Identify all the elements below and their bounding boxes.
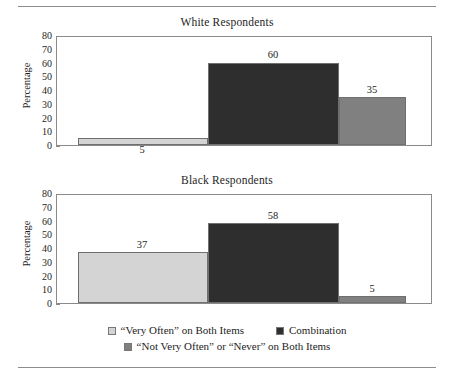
y-tick-20: 20 [18,114,52,124]
bar-white-not-very-often [339,97,406,145]
bar-value-white-not-very-often: 35 [367,84,378,95]
y-tick-0: 0 [18,141,52,151]
top-rule [18,6,436,7]
chart-legend: “Very Often” on Both Items Combination “… [0,320,454,352]
bar-value-black-combination: 58 [268,210,279,221]
y-tick-20: 20 [18,272,52,282]
legend-swatch-icon-not-very-often [124,343,132,351]
legend-row-2: “Not Very Often” or “Never” on Both Item… [0,336,454,352]
y-tick-70: 70 [18,203,52,213]
y-tick-50: 50 [18,230,52,240]
y-tick-10: 10 [18,127,52,137]
y-tick-30: 30 [18,258,52,268]
plot-area-black [56,194,432,304]
figure-page: White Respondents Percentage 0 10 20 30 … [0,0,454,380]
bar-value-black-not-very-often: 5 [369,283,374,294]
y-tick-0: 0 [18,299,52,309]
y-tick-60: 60 [18,59,52,69]
bar-white-combination [208,63,339,146]
panel-title-black: Black Respondents [0,174,454,186]
bar-black-very-often [78,252,208,303]
legend-swatch-icon-combination [276,327,284,335]
bar-black-combination [208,223,339,303]
bar-value-white-very-often: 5 [139,144,144,155]
legend-label-not-very-often: “Not Very Often” or “Never” on Both Item… [137,340,331,352]
legend-item-not-very-often: “Not Very Often” or “Never” on Both Item… [124,338,331,354]
y-tick-labels-black: 0 10 20 30 40 50 60 70 80 [18,194,52,304]
y-tick-10: 10 [18,285,52,295]
y-tick-50: 50 [18,72,52,82]
bar-black-not-very-often [339,296,406,303]
bottom-rule [18,367,436,368]
panel-title-white: White Respondents [0,16,454,28]
bar-value-black-very-often: 37 [137,239,148,250]
y-tick-labels-white: 0 10 20 30 40 50 60 70 80 [18,36,52,146]
legend-label-combination: Combination [289,324,346,336]
y-tick-70: 70 [18,45,52,55]
y-tick-40: 40 [18,244,52,254]
legend-swatch-icon-very-often [108,327,116,335]
legend-row-1: “Very Often” on Both Items Combination [0,320,454,336]
y-tick-60: 60 [18,217,52,227]
legend-label-very-often: “Very Often” on Both Items [121,324,244,336]
y-tick-80: 80 [18,189,52,199]
y-tick-40: 40 [18,86,52,96]
bar-value-white-combination: 60 [268,49,279,60]
y-tick-80: 80 [18,31,52,41]
y-tick-30: 30 [18,100,52,110]
bar-group-black [57,195,431,303]
